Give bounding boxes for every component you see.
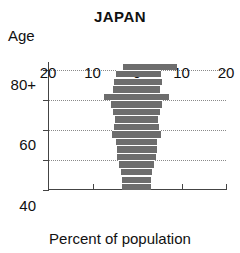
pyramid-bar — [137, 115, 158, 122]
x-axis-tick-label: 20 — [218, 64, 235, 81]
pyramid-bar — [137, 93, 169, 100]
pyramid-bar — [137, 160, 154, 167]
pyramid-bar — [137, 63, 177, 70]
pyramid-bar — [122, 183, 137, 190]
y-axis-tick-label: 40 — [19, 196, 36, 213]
x-axis-tick — [226, 184, 227, 190]
pyramid-bar — [137, 130, 161, 137]
y-axis-tick: 20 — [43, 160, 49, 161]
pyramid-bar — [111, 100, 137, 107]
pyramid-bar — [137, 78, 162, 85]
pyramid-bar — [137, 100, 162, 107]
pyramid-bar — [114, 123, 137, 130]
x-axis-tick — [93, 184, 94, 190]
pyramid-bar — [117, 145, 137, 152]
pyramid-bar — [137, 70, 161, 77]
x-axis-tick — [182, 184, 183, 190]
pyramid-bar — [116, 138, 137, 145]
pyramid-bar — [137, 183, 151, 190]
pyramid-bar — [122, 176, 137, 183]
pyramid-bar — [137, 145, 157, 152]
pyramid-bar — [116, 70, 137, 77]
y-axis-tick: 0 — [43, 190, 49, 191]
pyramid-bar — [137, 153, 156, 160]
plot-area: 020406080+201001020 — [48, 56, 226, 190]
y-axis-line — [48, 62, 49, 190]
pyramid-bar — [112, 130, 137, 137]
pyramid-bar — [137, 85, 160, 92]
x-axis-tick — [48, 184, 49, 190]
y-axis-tick-label: 60 — [19, 136, 36, 153]
pyramid-bar — [119, 160, 137, 167]
y-axis-tick: 40 — [43, 130, 49, 131]
y-axis-title: Age — [8, 27, 35, 44]
x-axis-title: Percent of population — [0, 230, 240, 247]
population-pyramid-chart: JAPAN Age 020406080+201001020 Percent of… — [0, 0, 240, 253]
pyramid-bar — [114, 78, 137, 85]
pyramid-bar — [137, 108, 160, 115]
pyramid-bar — [117, 153, 137, 160]
pyramid-bar — [137, 138, 157, 145]
pyramid-bar — [104, 93, 137, 100]
pyramid-bar — [137, 176, 151, 183]
x-axis-tick-label: 20 — [40, 64, 57, 81]
y-axis-tick-label: 80+ — [11, 76, 36, 93]
pyramid-bar — [137, 123, 159, 130]
pyramid-bar — [115, 115, 137, 122]
pyramid-bar — [113, 85, 137, 92]
pyramid-bar — [113, 108, 137, 115]
pyramid-bar — [121, 168, 137, 175]
pyramid-bar — [123, 63, 137, 70]
y-axis-tick: 60 — [43, 100, 49, 101]
chart-title: JAPAN — [0, 8, 240, 25]
pyramid-bar — [137, 168, 152, 175]
x-axis-tick-label: 10 — [84, 64, 101, 81]
